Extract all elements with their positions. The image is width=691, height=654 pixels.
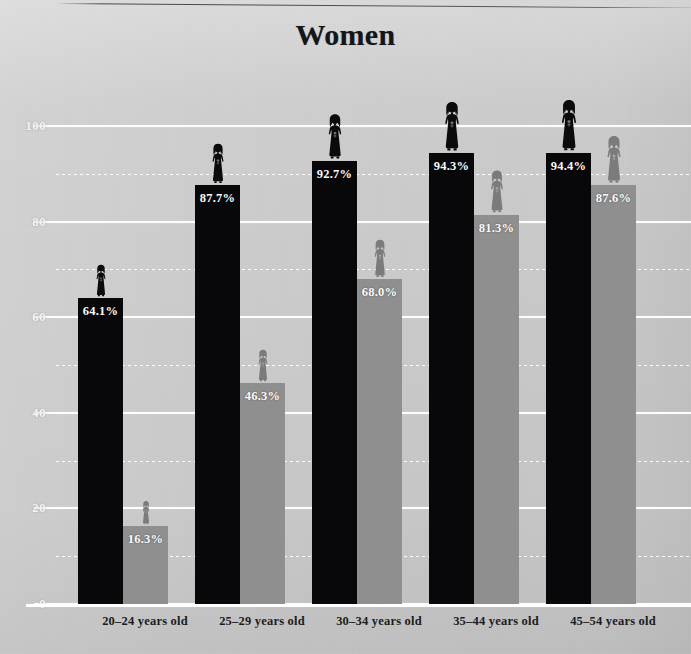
bar-value-label: 94.4% xyxy=(546,159,591,174)
y-axis-tick-label: 60 xyxy=(32,310,46,325)
woman-figure-icon xyxy=(604,135,624,185)
woman-figure-icon xyxy=(488,169,506,215)
woman-figure-icon xyxy=(94,264,108,298)
bar-value-label: 68.0% xyxy=(357,285,402,300)
bar-figure-dark xyxy=(325,113,344,161)
bar-dark[interactable]: 94.4% xyxy=(546,153,591,604)
bar-dark[interactable]: 94.3% xyxy=(429,153,474,604)
plot-area: 020406080100 64.1%16.3%87.7%46.3%92.7%68… xyxy=(56,126,691,604)
bar-value-label: 46.3% xyxy=(240,389,285,404)
y-axis-tick-label: 100 xyxy=(25,119,46,134)
woman-figure-icon xyxy=(372,239,388,279)
bar-value-label: 81.3% xyxy=(474,221,519,236)
bar-value-label: 94.3% xyxy=(429,159,474,174)
woman-figure-icon xyxy=(325,113,344,161)
bar-value-label: 87.7% xyxy=(195,191,240,206)
woman-figure-icon xyxy=(441,101,462,153)
y-axis-tick-label: 80 xyxy=(32,214,46,229)
bar-figure-light xyxy=(256,349,270,383)
woman-figure-icon xyxy=(141,500,151,526)
bar-light[interactable]: 68.0% xyxy=(357,279,402,604)
bar-figure-dark xyxy=(209,143,226,185)
bar-group: 94.4%87.6% xyxy=(546,126,636,604)
bar-dark[interactable]: 92.7% xyxy=(312,161,357,604)
bar-value-label: 64.1% xyxy=(78,304,123,319)
bar-value-label: 16.3% xyxy=(123,532,168,547)
bar-group: 64.1%16.3% xyxy=(78,126,168,604)
x-axis-tick-label: 30–34 years old xyxy=(311,614,447,629)
bar-dark[interactable]: 64.1% xyxy=(78,298,123,604)
bar-dark[interactable]: 87.7% xyxy=(195,185,240,604)
bar-figure-light xyxy=(372,239,388,279)
bar-group: 92.7%68.0% xyxy=(312,126,402,604)
chart-title: Women xyxy=(0,18,691,52)
bar-figure-light xyxy=(141,500,151,526)
y-axis-tick-label: 20 xyxy=(32,501,46,516)
woman-figure-icon xyxy=(256,349,270,383)
x-axis-tick-label: 20–24 years old xyxy=(77,614,213,629)
bar-group: 94.3%81.3% xyxy=(429,126,519,604)
woman-figure-icon xyxy=(558,99,580,153)
bar-value-label: 87.6% xyxy=(591,191,636,206)
bar-figure-dark xyxy=(558,99,580,153)
x-axis-tick-label: 35–44 years old xyxy=(428,614,564,629)
bar-light[interactable]: 46.3% xyxy=(240,383,285,604)
bar-figure-light xyxy=(604,135,624,185)
bar-light[interactable]: 81.3% xyxy=(474,215,519,604)
bar-figure-dark xyxy=(94,264,108,298)
x-axis-line xyxy=(26,604,691,607)
x-axis-tick-label: 25–29 years old xyxy=(194,614,330,629)
x-axis-tick-label: 45–54 years old xyxy=(545,614,681,629)
bar-value-label: 92.7% xyxy=(312,167,357,182)
bar-figure-dark xyxy=(441,101,462,153)
bar-light[interactable]: 87.6% xyxy=(591,185,636,604)
bar-light[interactable]: 16.3% xyxy=(123,526,168,604)
bar-figure-light xyxy=(488,169,506,215)
y-axis-tick-label: 40 xyxy=(32,405,46,420)
bar-group: 87.7%46.3% xyxy=(195,126,285,604)
woman-figure-icon xyxy=(209,143,226,185)
